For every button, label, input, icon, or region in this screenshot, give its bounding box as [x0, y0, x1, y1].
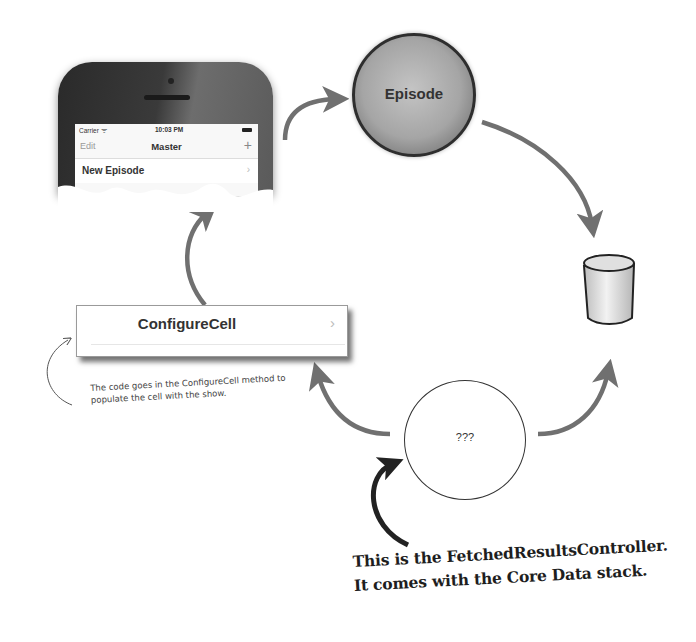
fetched-results-controller-node: ???	[404, 380, 526, 500]
arrow-fetched-to-configure	[318, 375, 390, 434]
torn-edge	[58, 62, 273, 212]
chevron-right-icon: ›	[330, 314, 335, 331]
fetched-label: ???	[405, 431, 525, 443]
episode-label: Episode	[355, 85, 473, 102]
arrow-phone-to-episode	[285, 99, 336, 140]
arrow-episode-to-store	[482, 122, 592, 225]
configure-cell-label: ConfigureCell	[77, 315, 297, 332]
configure-cell-node: ConfigureCell ›	[76, 305, 348, 357]
phone-mockup: Carrier ᯤ 10:03 PM Edit Master + New Epi…	[58, 62, 273, 202]
arrow-note-to-configure	[47, 340, 72, 405]
cell-separator	[91, 344, 345, 345]
data-store-cylinder-icon	[578, 248, 640, 328]
arrow-fetched-to-store	[538, 372, 608, 434]
arrow-note-to-fetched	[373, 464, 408, 545]
episode-entity-node: Episode	[352, 33, 476, 157]
arrow-configure-to-phone	[187, 213, 207, 305]
